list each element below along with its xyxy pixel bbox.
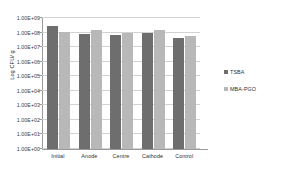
bar (59, 32, 70, 149)
y-axis-tick (39, 90, 42, 91)
bar (91, 30, 102, 149)
plot-area (42, 18, 200, 149)
bar-group (45, 18, 71, 149)
y-axis-tick (39, 104, 42, 105)
y-axis-tick (39, 61, 42, 62)
y-axis-tick-label: 1.00E+09 (17, 15, 40, 21)
bar (185, 36, 196, 149)
y-axis-tick-label: 1.00E+07 (17, 44, 40, 50)
bar (122, 33, 133, 149)
y-axis-tick (39, 32, 42, 33)
y-axis-tick-label: 1.00E+02 (17, 117, 40, 123)
y-axis-tick-label: 1.00E+06 (17, 59, 40, 65)
y-axis-tick-label: 1.00E+03 (17, 102, 40, 108)
bar (47, 26, 58, 149)
y-axis-tick (39, 133, 42, 134)
legend-label: TSBA (230, 69, 244, 75)
x-axis-tick-label: Control (168, 153, 200, 159)
y-axis-tick-label: 1.00E+00 (17, 146, 40, 152)
y-axis-tick-label: 1.00E+05 (17, 73, 40, 79)
legend-item: TSBA (224, 69, 284, 75)
bar (142, 33, 153, 149)
chart-legend: TSBAMBA-PGO (224, 69, 284, 103)
y-axis-tick (39, 148, 42, 149)
x-axis-tick-label: Anode (74, 153, 106, 159)
bar-group (108, 18, 134, 149)
bar (110, 35, 121, 149)
bar-group (140, 18, 166, 149)
bar (173, 38, 184, 149)
bar-group (171, 18, 197, 149)
bar-group (77, 18, 103, 149)
y-axis-tick (39, 17, 42, 18)
legend-item: MBA-PGO (224, 86, 284, 92)
bar (79, 34, 90, 149)
legend-swatch-icon (224, 87, 228, 91)
y-axis-tick-labels: 1.00E+091.00E+081.00E+071.00E+061.00E+05… (0, 0, 40, 180)
legend-swatch-icon (224, 70, 228, 74)
y-axis-tick (39, 46, 42, 47)
y-axis-tick (39, 75, 42, 76)
y-axis-tick-label: 1.00E+04 (17, 88, 40, 94)
y-axis-tick (39, 119, 42, 120)
x-axis-tick-label: Centre (105, 153, 137, 159)
x-axis-line (42, 149, 208, 150)
x-axis-tick-label: Initial (42, 153, 74, 159)
legend-label: MBA-PGO (230, 86, 256, 92)
x-axis-tick-label: Cathode (137, 153, 169, 159)
y-axis-tick-label: 1.00E+01 (17, 131, 40, 137)
y-axis-tick-label: 1.00E+08 (17, 30, 40, 36)
bar (154, 30, 165, 149)
bar-chart: Log CFU/ g 1.00E+091.00E+081.00E+071.00E… (0, 0, 286, 180)
